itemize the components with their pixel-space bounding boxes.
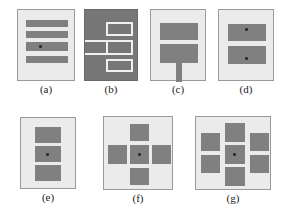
panel-f-caption: (f): [103, 192, 173, 204]
block-bottom: [228, 46, 266, 64]
block-east: [152, 145, 171, 164]
panel-f-frame: [103, 116, 173, 190]
panel-g-frame: [195, 116, 271, 190]
center-dot: [138, 153, 141, 156]
block-top: [35, 127, 61, 143]
panel-c-frame: [150, 9, 206, 81]
block-bottom: [35, 165, 61, 181]
block-top: [160, 23, 198, 40]
block-south: [225, 167, 245, 186]
panel-d-caption: (d): [218, 83, 274, 95]
panel-g: (g): [195, 116, 271, 204]
block-north-east: [250, 133, 269, 151]
outline-bottom-1: [106, 34, 133, 36]
block-south-east: [250, 155, 269, 173]
panel-a-caption: (a): [17, 83, 75, 95]
block-north-west: [201, 133, 220, 151]
block-south: [130, 168, 149, 185]
panel-f: (f): [103, 116, 173, 204]
outline-bottom-3: [106, 70, 133, 72]
panel-a-frame: [17, 9, 75, 81]
panel-d-frame: [218, 9, 274, 81]
panel-a: (a): [17, 9, 75, 95]
panel-c-caption: (c): [150, 83, 206, 95]
outline-top-2: [106, 40, 133, 42]
center-dot: [233, 153, 236, 156]
panel-b-caption: (b): [84, 83, 138, 95]
bar-2: [26, 31, 68, 38]
bar-3: [26, 42, 68, 51]
outline-top-1: [106, 22, 133, 24]
center-dot: [46, 153, 49, 156]
block-bottom: [160, 44, 198, 63]
panel-e-frame: [20, 117, 76, 189]
panel-e: (e): [20, 117, 76, 203]
panel-b-frame: [84, 9, 138, 81]
block-top: [228, 24, 266, 41]
block-north: [225, 123, 245, 142]
panel-g-caption: (g): [195, 192, 271, 204]
bar-4: [26, 56, 68, 63]
dot-bottom: [245, 57, 248, 60]
block-center: [225, 145, 245, 164]
panel-d: (d): [218, 9, 274, 95]
stem-horizontal-upper: [85, 40, 106, 42]
block-middle: [35, 146, 61, 162]
bar-1: [26, 20, 68, 27]
block-north: [130, 124, 149, 141]
stem-horizontal-lower: [85, 53, 106, 55]
figure-panel-grid: (a) (b): [0, 0, 292, 219]
outline-bottom-2: [106, 53, 133, 55]
block-west: [108, 145, 127, 164]
panel-b: (b): [84, 9, 138, 95]
outline-top-3: [106, 59, 133, 61]
stem: [176, 63, 182, 82]
block-south-west: [201, 155, 220, 173]
center-dot: [39, 45, 42, 48]
dot-top: [245, 28, 248, 31]
block-center: [130, 145, 149, 164]
panel-c: (c): [150, 9, 206, 95]
panel-e-caption: (e): [20, 191, 76, 203]
